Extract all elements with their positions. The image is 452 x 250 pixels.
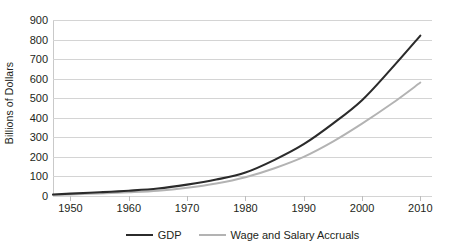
y-axis-tick-label: 100	[30, 170, 48, 182]
chart-legend: GDPWage and Salary Accruals	[53, 226, 432, 244]
y-axis-title-label: Billions of Dollars	[3, 61, 15, 143]
series-line	[53, 36, 420, 195]
x-axis-tick-mark	[304, 196, 305, 201]
legend-label: GDP	[158, 229, 182, 241]
legend-label: Wage and Salary Accruals	[231, 229, 360, 241]
y-axis-tick-label: 0	[42, 190, 48, 202]
line-chart-figure: Billions of Dollars 01002003004005006007…	[0, 0, 452, 250]
x-axis-tick-label: 1950	[58, 202, 82, 214]
y-axis-tick-label: 900	[30, 14, 48, 26]
y-axis-tick-label: 500	[30, 92, 48, 104]
x-axis-tick-mark	[70, 196, 71, 201]
x-axis-tick-label: 2010	[408, 202, 432, 214]
legend-item[interactable]: GDP	[126, 229, 182, 241]
y-axis-title: Billions of Dollars	[0, 0, 18, 205]
y-axis-tick-label: 200	[30, 151, 48, 163]
y-axis-tick-label: 600	[30, 73, 48, 85]
x-axis-tick-label: 1960	[117, 202, 141, 214]
series-lines	[53, 20, 432, 196]
x-axis-tick-label: 1970	[175, 202, 199, 214]
x-axis-tick-label: 2000	[350, 202, 374, 214]
plot-area	[53, 20, 432, 196]
y-axis-tick-label: 800	[30, 34, 48, 46]
x-axis-tick-mark	[420, 196, 421, 201]
x-axis-tick-labels: 1950196019701980199020002010	[53, 202, 432, 218]
y-axis-tick-label: 400	[30, 112, 48, 124]
x-axis-tick-mark	[362, 196, 363, 201]
x-axis-tick-mark	[245, 196, 246, 201]
series-line	[53, 83, 420, 195]
legend-swatch	[199, 234, 226, 236]
x-axis-tick-label: 1980	[233, 202, 257, 214]
x-axis-tick-mark	[129, 196, 130, 201]
x-axis-tick-label: 1990	[291, 202, 315, 214]
legend-swatch	[126, 234, 153, 236]
y-axis-tick-labels: 0100200300400500600700800900	[18, 0, 52, 205]
y-axis-tick-label: 700	[30, 53, 48, 65]
x-axis-tick-mark	[187, 196, 188, 201]
legend-item[interactable]: Wage and Salary Accruals	[199, 229, 360, 241]
y-axis-tick-label: 300	[30, 131, 48, 143]
